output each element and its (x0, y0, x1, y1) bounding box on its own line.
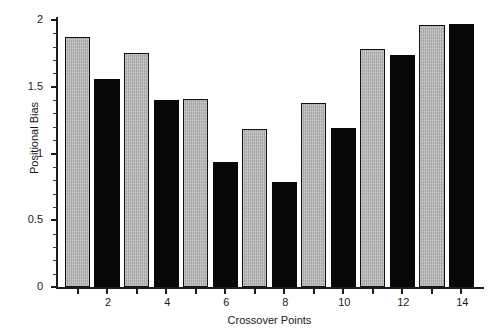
x-axis-tick (342, 289, 344, 294)
y-axis-title: Positional Bias (28, 78, 40, 198)
x-axis-tick (460, 289, 462, 294)
y-axis-tick-label: 2 (3, 14, 43, 25)
bar (331, 128, 356, 287)
x-axis-tick-label: 8 (270, 296, 300, 308)
x-axis-tick-label: 2 (93, 296, 123, 308)
x-axis-tick (106, 289, 108, 294)
plot-area (57, 20, 482, 287)
bar (272, 182, 297, 287)
x-axis-line (56, 287, 484, 289)
bar (65, 37, 90, 287)
bar (449, 24, 474, 287)
bar (419, 25, 444, 287)
x-axis-tick (195, 289, 197, 294)
bar (183, 99, 208, 287)
x-axis-tick-label: 14 (447, 296, 477, 308)
bar (154, 100, 179, 287)
bar (94, 79, 119, 287)
x-axis-tick (224, 289, 226, 294)
x-axis-tick (401, 289, 403, 294)
x-axis-tick (431, 289, 433, 294)
x-axis-tick-label: 6 (211, 296, 241, 308)
y-axis-tick-label: 0 (3, 281, 43, 292)
x-axis-tick (372, 289, 374, 294)
x-axis-tick (283, 289, 285, 294)
bar (301, 103, 326, 287)
bar (390, 55, 415, 287)
y-axis-tick-label: 0.5 (3, 214, 43, 225)
x-axis-tick-label: 10 (329, 296, 359, 308)
x-axis-title: Crossover Points (57, 314, 482, 326)
x-axis-tick-label: 12 (388, 296, 418, 308)
x-axis-tick (313, 289, 315, 294)
x-axis-tick (136, 289, 138, 294)
x-axis-tick-label: 4 (152, 296, 182, 308)
x-axis-tick (77, 289, 79, 294)
bar (124, 53, 149, 287)
bar-chart-figure: 00.511.52 2468101214 Positional Bias Cro… (0, 0, 495, 335)
x-axis-tick (254, 289, 256, 294)
bar (360, 49, 385, 287)
bar (242, 129, 267, 287)
x-axis-tick (165, 289, 167, 294)
bar (213, 162, 238, 287)
